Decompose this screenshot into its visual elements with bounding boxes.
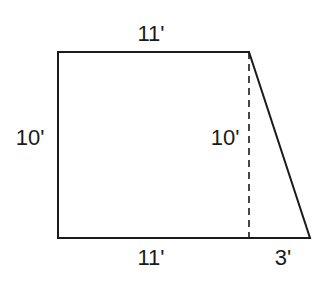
bottom-left-length-label: 11'	[137, 245, 164, 270]
top-length-label: 11'	[137, 21, 164, 46]
trapezoid-diagram: 11' 10' 10' 11' 3'	[0, 0, 330, 281]
left-height-label: 10'	[16, 125, 45, 150]
bottom-right-length-label: 3'	[275, 245, 291, 270]
trapezoid-outline	[58, 52, 310, 238]
inner-height-label: 10'	[211, 125, 240, 150]
